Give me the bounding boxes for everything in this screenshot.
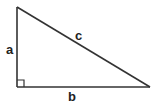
right-angle-marker-icon — [17, 80, 24, 87]
label-c: c — [75, 28, 82, 43]
label-a: a — [6, 42, 14, 57]
side-c-hypotenuse — [17, 7, 150, 87]
label-b: b — [68, 89, 76, 104]
right-triangle-diagram: a b c — [0, 0, 158, 106]
